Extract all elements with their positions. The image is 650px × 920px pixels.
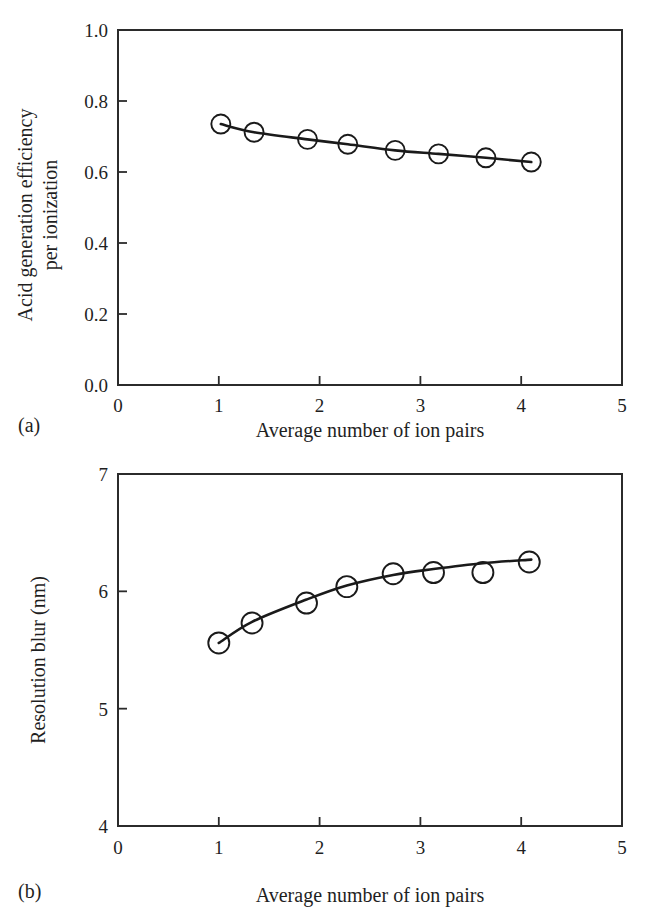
- chart-b-data-point: [208, 632, 229, 653]
- chart-b-xtick-label: 2: [315, 837, 325, 858]
- chart-a-tick-labels: 0123450.00.20.40.60.81.0: [84, 20, 627, 416]
- chart-a-data-point: [245, 123, 264, 142]
- chart-a-xtick-label: 1: [214, 395, 224, 416]
- chart-b-xtick-label: 1: [214, 837, 224, 858]
- chart-a-xtick-label: 2: [315, 395, 325, 416]
- chart-b-ytick-label: 6: [99, 581, 109, 602]
- chart-a-frame: [118, 30, 622, 385]
- chart-a-ytick-label: 1.0: [84, 20, 108, 41]
- chart-b-series: [208, 552, 539, 654]
- chart-a-data-point: [476, 148, 495, 167]
- chart-b-tick-labels: 0123454567: [99, 464, 627, 858]
- chart-a-ytick-label: 0.8: [84, 91, 108, 112]
- chart-a-xtick-label: 3: [416, 395, 426, 416]
- chart-a-data-point: [522, 153, 541, 172]
- chart-b-plot-frame: [118, 474, 622, 826]
- chart-a-xlabel: Average number of ion pairs: [256, 419, 485, 442]
- chart-b-xlabel: Average number of ion pairs: [256, 884, 485, 907]
- chart-b-xtick-label: 3: [416, 837, 426, 858]
- chart-a-data-point: [429, 144, 448, 163]
- chart-a-data-point: [298, 130, 317, 149]
- chart-b-xtick-label: 4: [516, 837, 526, 858]
- figure-panel-b: 0123454567 Average number of ion pairs R…: [0, 460, 650, 920]
- chart-b-ytick-label: 5: [99, 699, 109, 720]
- chart-b-xtick-label: 5: [617, 837, 627, 858]
- chart-a-ytick-label: 0.0: [84, 375, 108, 396]
- chart-b-ticks: [118, 591, 521, 826]
- chart-a-data-point: [386, 141, 405, 160]
- chart-b-ytick-label: 4: [99, 816, 109, 837]
- chart-b-ytick-label: 7: [99, 464, 109, 485]
- chart-a-series: [211, 115, 540, 172]
- chart-b-data-point: [336, 576, 357, 597]
- panel-label-b: (b): [18, 880, 41, 903]
- chart-a-ytick-label: 0.2: [84, 304, 108, 325]
- chart-a-xtick-label: 0: [113, 395, 123, 416]
- chart-b-data-point: [423, 562, 444, 583]
- chart-a-ticks: [118, 101, 521, 385]
- chart-a-data-point: [338, 135, 357, 154]
- chart-a-data-point: [211, 115, 230, 134]
- chart-b-svg: 0123454567 Average number of ion pairs R…: [0, 460, 650, 920]
- chart-a-ytick-label: 0.6: [84, 162, 108, 183]
- chart-b-xtick-label: 0: [113, 837, 123, 858]
- chart-b-data-point: [242, 613, 263, 634]
- chart-a-ytick-label: 0.4: [84, 233, 108, 254]
- chart-b-data-point: [472, 562, 493, 583]
- chart-a-plot-frame: [118, 30, 622, 385]
- chart-b-ylabel-line1: Resolution blur (nm): [27, 576, 50, 744]
- chart-b-data-point: [383, 563, 404, 584]
- chart-a-xtick-label: 4: [516, 395, 526, 416]
- panel-label-a: (a): [18, 414, 40, 437]
- chart-a-xtick-label: 5: [617, 395, 627, 416]
- chart-a-ylabel-line2: per ionization: [39, 160, 62, 271]
- chart-b-data-point: [519, 552, 540, 573]
- chart-a-svg: 0123450.00.20.40.60.81.0 Average number …: [0, 0, 650, 460]
- chart-b-data-point: [296, 593, 317, 614]
- chart-a-ylabel-line1: Acid generation efficiency: [14, 109, 37, 322]
- chart-b-frame: [118, 474, 622, 826]
- figure-panel-a: 0123450.00.20.40.60.81.0 Average number …: [0, 0, 650, 460]
